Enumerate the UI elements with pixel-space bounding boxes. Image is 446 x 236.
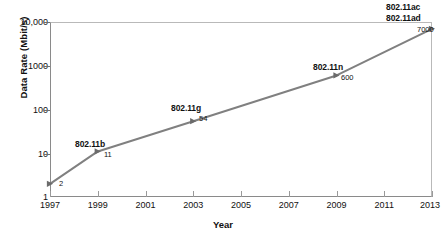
x-tick-label-2013: 2013	[410, 200, 446, 210]
value-label-600: 600	[341, 73, 354, 82]
y-tick-mark-10000	[44, 22, 50, 23]
x-tick-label-2009: 2009	[317, 200, 357, 210]
y-tick-label-10: 10	[4, 149, 48, 159]
x-tick-label-1997: 1997	[30, 200, 70, 210]
x-axis-title: Year	[0, 219, 446, 230]
y-tick-mark-10	[44, 154, 50, 155]
x-tick-mark-2009	[337, 191, 338, 197]
x-tick-mark-2001	[146, 191, 147, 197]
annotation-802-11ad: 802.11ad	[386, 13, 421, 23]
plot-area	[50, 22, 432, 197]
wifi-data-rate-chart: Data Rate (Mbit/s) 10,000 1000 100 10 1 …	[0, 0, 446, 236]
x-tick-mark-2011	[384, 191, 385, 197]
y-tick-mark-100	[44, 110, 50, 111]
x-tick-label-2003: 2003	[173, 200, 213, 210]
x-tick-mark-1999	[98, 191, 99, 197]
x-tick-label-2005: 2005	[221, 200, 261, 210]
annotation-802-11g: 802.11g	[171, 103, 201, 113]
y-tick-label-1000: 1000	[4, 61, 48, 71]
value-label-7000: 7000	[417, 25, 434, 34]
x-tick-label-1999: 1999	[78, 200, 118, 210]
y-tick-mark-1000	[44, 66, 50, 67]
x-tick-mark-2013	[432, 191, 433, 197]
annotation-802-11n: 802.11n	[313, 62, 343, 72]
x-tick-label-2011: 2011	[364, 200, 404, 210]
x-tick-label-2007: 2007	[269, 200, 309, 210]
x-tick-mark-1997	[50, 191, 51, 197]
x-tick-mark-2007	[289, 191, 290, 197]
annotation-802-11b: 802.11b	[75, 139, 105, 149]
value-label-54: 54	[199, 114, 207, 123]
value-label-11: 11	[104, 150, 112, 159]
y-tick-label-10000: 10,000	[4, 17, 48, 27]
value-label-2: 2	[59, 179, 63, 188]
annotation-802-11ac: 802.11ac	[386, 2, 420, 12]
x-tick-mark-2003	[193, 191, 194, 197]
x-tick-mark-2005	[241, 191, 242, 197]
x-tick-label-2001: 2001	[126, 200, 166, 210]
y-tick-label-100: 100	[4, 105, 48, 115]
